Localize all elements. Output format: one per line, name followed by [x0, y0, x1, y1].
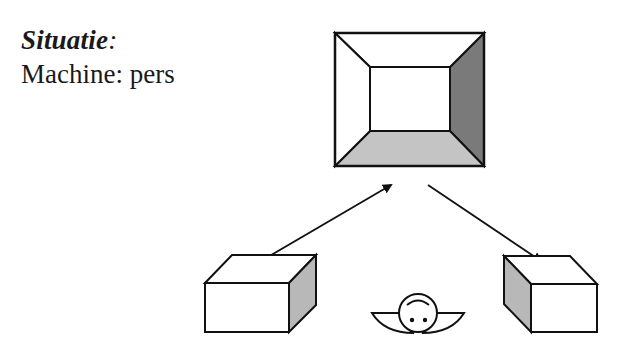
- press-machine-icon: [335, 33, 484, 166]
- input-box-icon: [205, 255, 316, 332]
- arrow-to-output-icon: [428, 185, 541, 261]
- process-diagram: [0, 0, 623, 348]
- arrow-to-press-icon: [261, 185, 391, 261]
- output-box-icon: [504, 256, 597, 332]
- operator-icon: [372, 294, 464, 333]
